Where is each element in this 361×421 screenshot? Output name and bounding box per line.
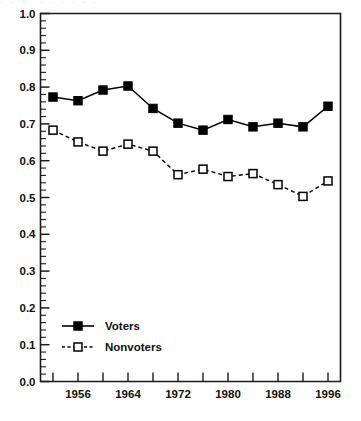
x-tick-label: 1980 <box>215 388 241 400</box>
nonvoters-data-point <box>49 126 57 134</box>
x-axis-major-ticks <box>53 373 328 382</box>
y-tick-label: 0.7 <box>20 118 36 130</box>
nonvoters-data-point <box>174 171 182 179</box>
y-tick-label: 0.2 <box>20 302 36 314</box>
y-tick-label: 0.9 <box>20 44 36 56</box>
voters-data-point <box>149 104 157 112</box>
x-tick-label: 1956 <box>65 388 91 400</box>
x-tick-label: 1964 <box>115 388 141 400</box>
chart-legend: VotersNonvoters <box>62 320 162 353</box>
nonvoters-data-point <box>274 181 282 189</box>
nonvoters-data-point <box>249 170 257 178</box>
legend-label: Nonvoters <box>105 341 162 353</box>
x-tick-label: 1972 <box>165 388 191 400</box>
y-tick-label: 0.4 <box>20 228 37 240</box>
voters-data-point <box>124 82 132 90</box>
voters-polyline <box>53 86 328 130</box>
voters-data-point <box>174 119 182 127</box>
x-tick-label: 1996 <box>315 388 341 400</box>
nonvoters-data-point <box>149 147 157 155</box>
voters-data-point <box>299 123 307 131</box>
nonvoters-data-point <box>224 173 232 181</box>
line-chart-plot: 0.00.10.20.30.40.50.60.70.80.91.0 195619… <box>0 0 361 421</box>
y-tick-label: 0.0 <box>20 376 36 388</box>
nonvoters-data-point <box>324 177 332 185</box>
y-tick-label: 0.5 <box>20 192 37 204</box>
chart-container: · · · · · · · · · · 0.00.10.20.30.40.50.… <box>0 0 361 421</box>
y-axis-tick-labels: 0.00.10.20.30.40.50.60.70.80.91.0 <box>20 8 37 388</box>
y-tick-label: 0.6 <box>20 155 36 167</box>
x-axis-tick-labels: 195619641972198019881996 <box>65 388 341 400</box>
x-tick-label: 1988 <box>265 388 291 400</box>
series-line-nonvoters <box>53 130 328 196</box>
series-line-voters <box>53 86 328 130</box>
voters-data-point <box>224 115 232 123</box>
y-tick-label: 1.0 <box>20 8 36 20</box>
voters-data-point <box>74 97 82 105</box>
voters-data-point <box>199 126 207 134</box>
y-tick-label: 0.8 <box>20 81 37 93</box>
legend-marker-open-square <box>74 343 82 351</box>
legend-marker-filled-square <box>74 322 82 330</box>
legend-label: Voters <box>105 320 140 332</box>
nonvoters-data-point <box>299 192 307 200</box>
y-tick-label: 0.3 <box>20 265 36 277</box>
series-markers-nonvoters <box>49 126 332 200</box>
voters-data-point <box>99 86 107 94</box>
nonvoters-data-point <box>124 140 132 148</box>
voters-data-point <box>249 123 257 131</box>
nonvoters-polyline <box>53 130 328 196</box>
voters-data-point <box>49 93 57 101</box>
y-axis-major-ticks <box>41 14 50 382</box>
nonvoters-data-point <box>74 138 82 146</box>
nonvoters-data-point <box>99 147 107 155</box>
nonvoters-data-point <box>199 165 207 173</box>
voters-data-point <box>324 102 332 110</box>
voters-data-point <box>274 119 282 127</box>
y-tick-label: 0.1 <box>20 339 37 351</box>
